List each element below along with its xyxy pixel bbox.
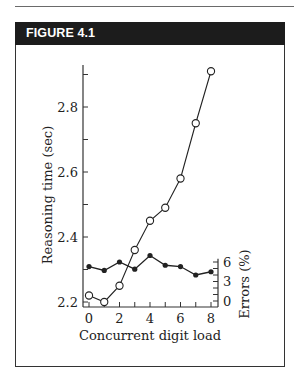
x-tick-label: 6 <box>176 311 184 326</box>
x-tick-label: 0 <box>85 311 93 326</box>
y-tick-label: 2.6 <box>57 165 78 180</box>
data-point-errors <box>193 272 198 277</box>
data-point-errors <box>102 268 107 273</box>
y-right-tick-label: 3 <box>223 274 231 289</box>
data-point-reasoning-time <box>131 246 138 253</box>
data-point-errors <box>208 269 213 274</box>
x-tick-label: 8 <box>207 311 215 326</box>
data-point-errors <box>117 259 122 264</box>
y-axis-label: Reasoning time (sec) <box>40 126 55 264</box>
data-point-errors <box>163 263 168 268</box>
y-tick-label: 2.4 <box>57 230 78 245</box>
data-point-reasoning-time <box>116 282 123 289</box>
y-tick-label: 2.2 <box>57 295 78 310</box>
data-point-reasoning-time <box>207 68 214 75</box>
right-axis: 036 <box>213 255 231 309</box>
x-tick-label: 2 <box>115 311 123 326</box>
chart: 2.22.42.62.8 02468 036 Concurrent digit … <box>0 0 294 386</box>
data-point-reasoning-time <box>162 204 169 211</box>
data-point-reasoning-time <box>177 175 184 182</box>
data-point-errors <box>132 267 137 272</box>
y-tick-label: 2.8 <box>57 100 78 115</box>
data-point-errors <box>147 253 152 258</box>
x-tick-label: 4 <box>146 311 154 326</box>
y-right-tick-label: 0 <box>223 294 231 309</box>
data-point-reasoning-time <box>192 120 199 127</box>
data-point-errors <box>178 264 183 269</box>
series-errors <box>86 253 213 278</box>
y-right-axis-label: Errors (%) <box>237 249 252 318</box>
data-point-reasoning-time <box>85 292 92 299</box>
data-point-reasoning-time <box>146 217 153 224</box>
left-axis: 2.22.42.62.8 <box>57 65 88 310</box>
data-point-reasoning-time <box>101 298 108 305</box>
x-axis-label: Concurrent digit load <box>79 328 221 343</box>
data-point-errors <box>86 264 91 269</box>
y-right-tick-label: 6 <box>223 255 231 270</box>
